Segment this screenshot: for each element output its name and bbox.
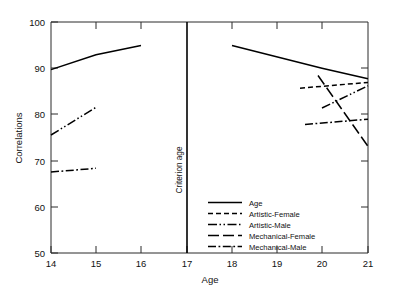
y-tick-label: 50 <box>34 248 45 259</box>
legend-item-mechanical-male: Mechanical-Male <box>208 243 306 252</box>
x-tick-label: 14 <box>46 258 57 269</box>
y-axis-title: Correlations <box>13 112 24 163</box>
y-tick-label: 100 <box>29 17 45 28</box>
chart-figure: 100 90 80 70 60 50 14 15 16 17 18 19 20 … <box>0 0 394 300</box>
x-axis-ticks <box>51 22 368 253</box>
x-tick-label: 19 <box>272 258 283 269</box>
legend-label: Artistic-Female <box>249 210 300 219</box>
y-tick-labels: 100 90 80 70 60 50 <box>29 17 45 259</box>
x-tick-labels: 14 15 16 17 18 19 20 21 <box>46 258 374 269</box>
axis-frame-path <box>51 22 368 253</box>
series-age-right <box>232 46 368 79</box>
x-axis-title: Age <box>202 274 219 285</box>
y-tick-label: 60 <box>34 202 45 213</box>
chart-legend: Age Artistic-Female Artistic-Male Mechan… <box>208 199 315 252</box>
y-tick-label: 70 <box>34 156 45 167</box>
x-tick-label: 20 <box>317 258 328 269</box>
legend-label: Age <box>249 199 263 208</box>
x-tick-label: 21 <box>363 258 374 269</box>
x-tick-label: 15 <box>91 258 102 269</box>
legend-label: Mechanical-Male <box>249 243 306 252</box>
series-artistic-male-right <box>322 86 368 108</box>
y-axis-ticks <box>51 22 58 253</box>
legend-label: Mechanical-Female <box>249 232 315 241</box>
legend-item-mechanical-female: Mechanical-Female <box>208 232 315 241</box>
legend-label: Artistic-Male <box>249 221 291 230</box>
series-mechanical-male-left <box>51 168 96 172</box>
x-tick-label: 17 <box>182 258 193 269</box>
series-artistic-female-right <box>300 82 368 88</box>
x-tick-label: 16 <box>136 258 147 269</box>
legend-item-artistic-male: Artistic-Male <box>208 221 291 230</box>
criterion-age-reference: Criterion age <box>175 22 187 253</box>
y-tick-label: 90 <box>34 63 45 74</box>
criterion-age-label: Criterion age <box>175 146 184 193</box>
series-artistic-male-left <box>51 107 96 135</box>
axes-frame <box>51 22 368 253</box>
x-tick-label: 18 <box>227 258 238 269</box>
series-mechanical-male-right <box>305 119 368 124</box>
y-tick-label: 80 <box>34 109 45 120</box>
legend-item-artistic-female: Artistic-Female <box>208 210 300 219</box>
legend-item-age: Age <box>208 199 263 208</box>
correlations-by-age-line-chart: 100 90 80 70 60 50 14 15 16 17 18 19 20 … <box>0 0 394 300</box>
series-age-left <box>51 46 141 70</box>
